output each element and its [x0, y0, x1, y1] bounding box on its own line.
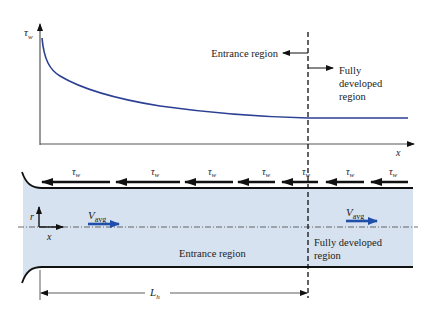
shear-label: τw: [346, 166, 355, 179]
shear-label: τw: [302, 166, 311, 179]
pipe-top-wall: [22, 172, 413, 188]
pipe: [18, 172, 418, 283]
r-label: r: [30, 211, 34, 222]
x-axis-label: x: [395, 147, 401, 158]
pipe-bottom-wall: [22, 267, 413, 283]
shear-label: τw: [208, 166, 217, 179]
wall-shear-arrows: τw τw τw τw τw τw τw: [42, 166, 408, 182]
pipe-fluid: [23, 173, 413, 282]
entrance-length-dimension: Lh: [40, 270, 307, 301]
pipe-entrance-region-label: Entrance region: [179, 248, 247, 259]
entrance-length-label: Lh: [149, 286, 160, 301]
region-labels: Entrance region Fully developed region: [211, 48, 385, 102]
entrance-region-diagram: τw x Entrance region Fully developed reg…: [0, 0, 435, 321]
shear-label: τw: [72, 166, 81, 179]
y-axis-label: τw: [24, 26, 33, 41]
shear-label: τw: [151, 166, 160, 179]
x-label: x: [46, 231, 52, 242]
entrance-region-label: Entrance region: [211, 48, 279, 59]
shear-label: τw: [262, 166, 271, 179]
fully-developed-label: Fully developed region: [339, 65, 385, 102]
shear-label: τw: [389, 166, 398, 179]
